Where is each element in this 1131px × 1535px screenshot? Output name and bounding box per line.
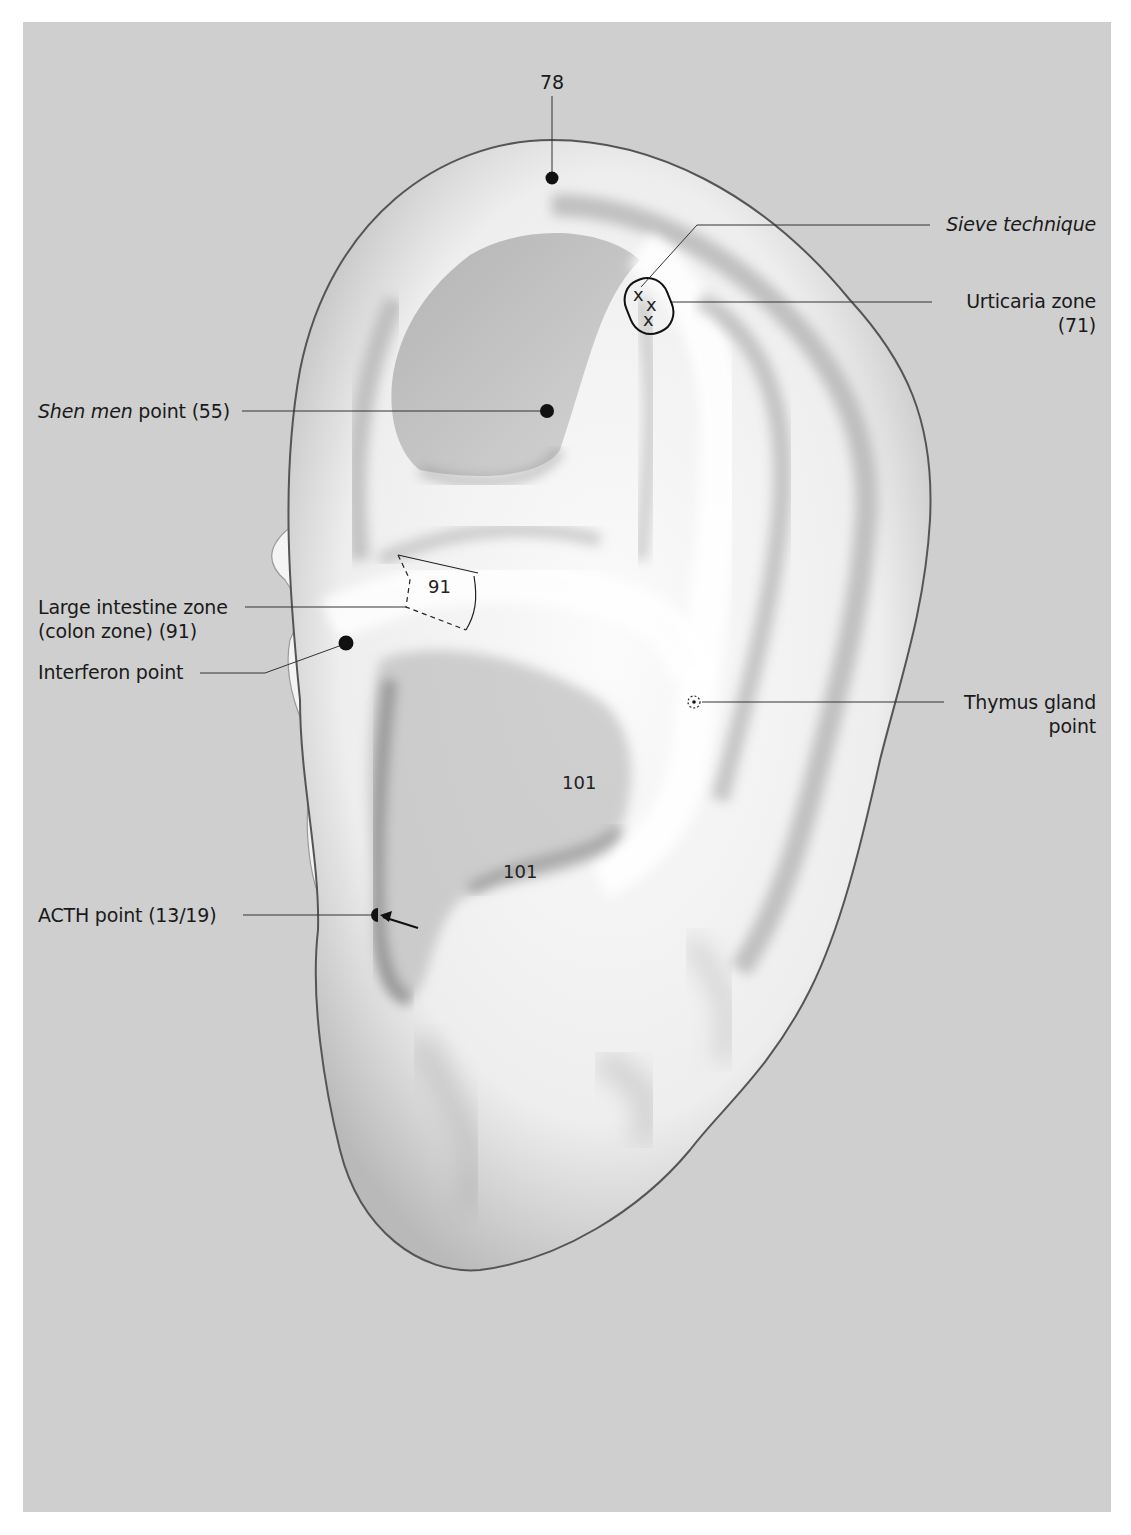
label-urticaria-zone: Urticaria zone (71) <box>900 289 1096 337</box>
label-large-intestine-zone: Large intestine zone (colon zone) (91) <box>38 595 228 643</box>
thymus-line2: point <box>900 714 1096 738</box>
point-78-marker <box>546 172 559 185</box>
svg-text:x: x <box>643 309 654 330</box>
urticaria-line2: (71) <box>900 313 1096 337</box>
label-acth-point: ACTH point (13/19) <box>38 903 216 927</box>
label-sieve-technique: Sieve technique <box>900 212 1096 236</box>
label-shen-men-point: Shen men point (55) <box>38 399 230 423</box>
region-number-91: 91 <box>428 576 451 597</box>
label-thymus-gland-point: Thymus gland point <box>900 690 1096 738</box>
urticaria-line1: Urticaria zone <box>900 289 1096 313</box>
region-number-101-lower: 101 <box>503 861 537 882</box>
label-interferon-point: Interferon point <box>38 660 183 684</box>
region-number-101-upper: 101 <box>562 772 596 793</box>
shen-men-italic: Shen men <box>38 400 133 422</box>
large-intestine-line2: (colon zone) (91) <box>38 619 228 643</box>
label-point-78: 78 <box>540 70 564 94</box>
sieve-technique-text: Sieve technique <box>946 213 1096 235</box>
thymus-line1: Thymus gland <box>900 690 1096 714</box>
large-intestine-line1: Large intestine zone <box>38 595 228 619</box>
svg-text:x: x <box>633 284 644 305</box>
shen-men-rest: point (55) <box>133 400 230 422</box>
shen-men-marker <box>540 404 554 418</box>
interferon-marker <box>339 636 354 651</box>
